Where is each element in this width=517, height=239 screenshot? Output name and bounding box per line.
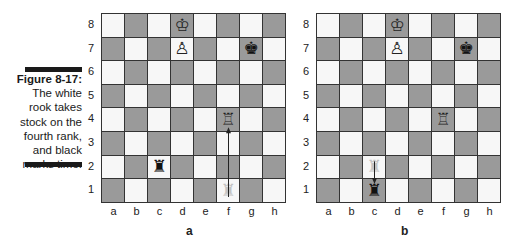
move-arrow-icon xyxy=(0,0,517,239)
